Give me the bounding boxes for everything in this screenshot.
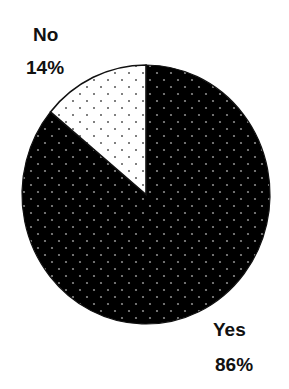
slice-value-no: 14% xyxy=(26,58,64,77)
pie-chart: No 14% Yes 86% xyxy=(0,0,289,389)
slice-value-yes: 86% xyxy=(215,355,253,374)
slice-label-no: No xyxy=(33,25,58,44)
slice-label-yes: Yes xyxy=(213,320,246,339)
